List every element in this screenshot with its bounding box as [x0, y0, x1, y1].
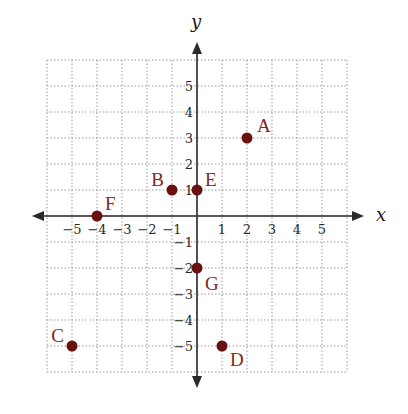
x-axis-right-arrow-icon [352, 211, 364, 221]
coordinate-plane: x y −5−4−3−2−11234554321−1−2−3−4−5 ABCDE… [0, 0, 408, 414]
y-tick-label: 5 [185, 79, 193, 94]
point-marker [192, 263, 203, 274]
point-label: E [205, 169, 217, 190]
y-tick-label: −2 [174, 261, 193, 276]
x-tick-label: 5 [318, 222, 326, 237]
y-tick-label: 2 [185, 157, 193, 172]
y-tick-label: 3 [185, 131, 193, 146]
point-b: B [151, 169, 177, 196]
point-e: E [192, 169, 217, 196]
x-axis-label: x [376, 204, 386, 225]
point-label: C [51, 325, 64, 346]
y-tick-label: −3 [174, 287, 193, 302]
point-f: F [92, 193, 116, 222]
point-marker [242, 133, 253, 144]
x-tick-label: 2 [243, 222, 251, 237]
x-tick-label: −5 [62, 222, 81, 237]
y-tick-label: −4 [174, 313, 193, 328]
point-label: B [151, 169, 164, 190]
point-marker [192, 185, 203, 196]
point-marker [67, 341, 78, 352]
x-tick-label: −2 [137, 222, 156, 237]
y-tick-label: −1 [174, 235, 193, 250]
x-tick-label: 3 [268, 222, 276, 237]
y-tick-label: −5 [174, 339, 193, 354]
x-tick-label: 4 [293, 222, 301, 237]
axes: x y [32, 11, 386, 388]
x-tick-label: −3 [112, 222, 131, 237]
x-axis-left-arrow-icon [32, 211, 44, 221]
data-points: ABCDEFG [51, 115, 271, 370]
point-c: C [51, 325, 77, 352]
y-axis-up-arrow-icon [192, 42, 202, 54]
x-tick-label: 1 [218, 222, 226, 237]
y-axis-label: y [190, 11, 202, 32]
point-marker [217, 341, 228, 352]
y-axis-down-arrow-icon [192, 376, 202, 388]
point-marker [167, 185, 178, 196]
point-d: D [217, 341, 244, 371]
point-g: G [192, 263, 220, 295]
point-label: A [257, 115, 271, 136]
y-tick-label: 4 [185, 105, 193, 120]
x-tick-label: −4 [87, 222, 106, 237]
point-a: A [242, 115, 272, 144]
point-marker [92, 211, 103, 222]
point-label: D [230, 349, 244, 370]
point-label: F [105, 193, 116, 214]
point-label: G [205, 273, 219, 294]
